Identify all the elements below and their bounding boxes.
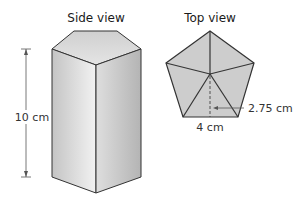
height-label: 10 cm bbox=[15, 111, 49, 124]
prism bbox=[52, 31, 141, 193]
apothem-label: 2.75 cm bbox=[248, 102, 293, 115]
top-view-title: Top view bbox=[183, 11, 236, 25]
prism-left-face bbox=[52, 49, 96, 193]
side-view-title: Side view bbox=[67, 11, 125, 25]
prism-right-face bbox=[96, 49, 141, 193]
pentagon bbox=[166, 31, 254, 117]
diagram: Side view 10 cm Top view 2.75 cm 4 cm bbox=[0, 0, 307, 204]
side-length-label: 4 cm bbox=[196, 121, 223, 134]
